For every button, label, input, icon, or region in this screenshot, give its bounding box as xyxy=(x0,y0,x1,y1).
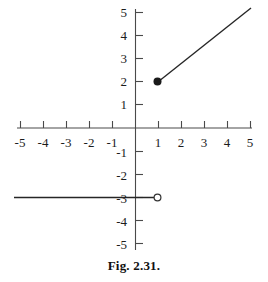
y-tick-label-5: 5 xyxy=(104,6,127,19)
x-tick-label--2: -2 xyxy=(84,136,95,149)
figure-caption: Fig. 2.31. xyxy=(0,258,268,274)
open-endpoint-marker xyxy=(154,194,161,201)
coordinate-plane-svg xyxy=(0,0,268,256)
x-tick-label-1: 1 xyxy=(155,136,162,149)
y-tick-label--5: -5 xyxy=(104,238,127,251)
x-tick-label--3: -3 xyxy=(61,136,72,149)
y-tick-label-3: 3 xyxy=(104,52,127,65)
y-tick-label-2: 2 xyxy=(104,75,127,88)
x-tick-label-3: 3 xyxy=(201,136,208,149)
x-tick-label-5: 5 xyxy=(247,136,254,149)
plot-area: -5 -4 -3 -2 -1 1 2 3 4 5 5 4 3 2 1 -1 -2… xyxy=(0,0,268,256)
y-tick-label--1: -1 xyxy=(104,146,127,159)
y-tick-label--3: -3 xyxy=(104,192,127,205)
figure-container: -5 -4 -3 -2 -1 1 2 3 4 5 5 4 3 2 1 -1 -2… xyxy=(0,0,268,282)
y-tick-label--4: -4 xyxy=(104,215,127,228)
x-tick-label-2: 2 xyxy=(178,136,185,149)
y-tick-label-4: 4 xyxy=(104,29,127,42)
x-tick-label--4: -4 xyxy=(38,136,49,149)
right-branch-ray xyxy=(159,8,252,82)
y-tick-label-1: 1 xyxy=(104,98,127,111)
closed-endpoint-marker xyxy=(154,78,162,86)
x-tick-label-4: 4 xyxy=(224,136,231,149)
x-tick-label--5: -5 xyxy=(15,136,26,149)
y-tick-label--2: -2 xyxy=(104,169,127,182)
